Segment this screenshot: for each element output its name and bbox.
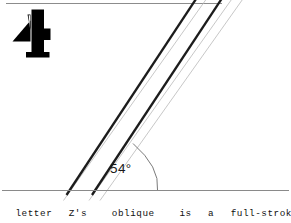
angle-measure-label: 54° bbox=[110, 161, 132, 176]
lettering-diagram bbox=[0, 0, 291, 223]
guide-line-left bbox=[64, 0, 209, 201]
oblique-stroke-primary bbox=[67, 0, 199, 195]
four-right-nub bbox=[44, 29, 51, 41]
caption-line: The letter Z's oblique is a full-stroke'… bbox=[0, 204, 291, 223]
numeral-four-glyph bbox=[13, 10, 51, 58]
figure-page: 54° The letter Z's oblique is a full-str… bbox=[0, 0, 291, 223]
oblique-stroke-group bbox=[67, 0, 224, 195]
four-foot-serif bbox=[26, 52, 50, 58]
caption-text: The letter Z's oblique is a full-stroke'… bbox=[0, 207, 291, 220]
angle-arc bbox=[133, 144, 158, 191]
four-stem bbox=[32, 10, 45, 54]
four-left-wedge bbox=[13, 21, 31, 42]
